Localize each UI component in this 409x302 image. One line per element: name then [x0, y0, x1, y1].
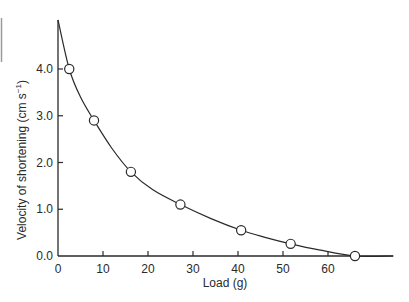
y-tick-label: 4.0 — [36, 62, 53, 76]
y-tick-label: 0.0 — [36, 249, 53, 263]
x-axis-title: Load (g) — [203, 276, 248, 290]
x-tick-label: 20 — [141, 262, 155, 276]
data-point-marker — [350, 251, 359, 260]
curve-path — [58, 20, 393, 257]
velocity-load-chart: 01020304050600.01.02.03.04.0 Load (g) Ve… — [0, 0, 409, 302]
x-tick-label: 60 — [321, 262, 335, 276]
x-tick-label: 10 — [96, 262, 110, 276]
x-tick-label: 50 — [276, 262, 290, 276]
data-points — [65, 64, 360, 260]
data-point-marker — [237, 226, 246, 235]
fitted-curve — [58, 20, 393, 257]
y-axis-title: Velocity of shortening (cm s−1) — [14, 80, 29, 240]
y-tick-label: 3.0 — [36, 109, 53, 123]
data-point-marker — [89, 116, 98, 125]
x-tick-label: 40 — [231, 262, 245, 276]
axes: 01020304050600.01.02.03.04.0 — [36, 20, 393, 276]
data-point-marker — [65, 64, 74, 73]
x-tick-label: 30 — [186, 262, 200, 276]
data-point-marker — [286, 239, 295, 248]
y-tick-label: 2.0 — [36, 156, 53, 170]
y-tick-label: 1.0 — [36, 202, 53, 216]
x-tick-label: 0 — [55, 262, 62, 276]
data-point-marker — [126, 167, 135, 176]
data-point-marker — [176, 200, 185, 209]
